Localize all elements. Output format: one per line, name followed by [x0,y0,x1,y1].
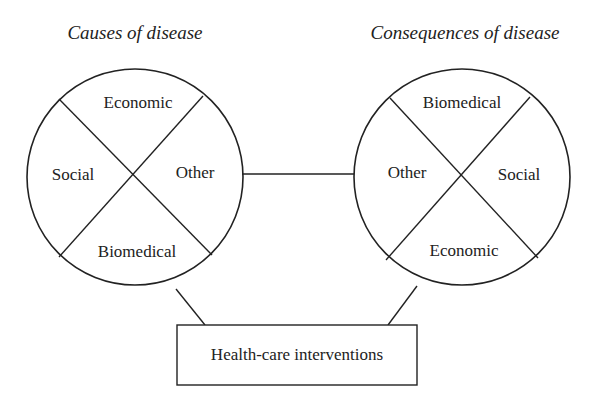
causes-quadrant-top: Economic [104,93,173,113]
consequences-title: Consequences of disease [371,22,560,44]
consequences-quadrant-bottom: Economic [430,241,499,261]
causes-quadrant-bottom: Biomedical [98,242,176,262]
connector-right-to-box [388,286,417,325]
consequences-quadrant-left: Other [388,163,427,183]
causes-title: Causes of disease [67,22,202,44]
connector-left-to-box [176,289,205,325]
causes-quadrant-left: Social [52,165,95,185]
consequences-quadrant-right: Social [498,165,541,185]
interventions-label: Health-care interventions [211,345,383,365]
consequences-quadrant-top: Biomedical [423,93,501,113]
causes-quadrant-right: Other [176,163,215,183]
